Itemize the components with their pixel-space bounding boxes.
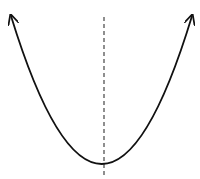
parabola-curve — [11, 16, 192, 164]
parabola-diagram — [0, 0, 200, 179]
